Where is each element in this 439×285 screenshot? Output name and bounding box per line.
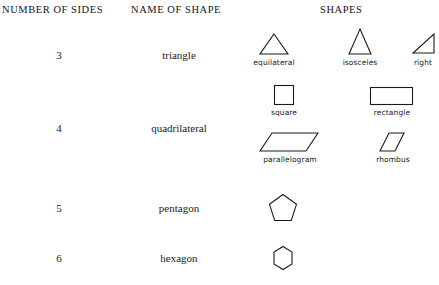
cell-name-hexagon: hexagon (118, 252, 240, 264)
figure-square (273, 84, 295, 106)
figure-pentagon (268, 193, 298, 222)
cell-sides-hexagon: 6 (0, 252, 118, 264)
column-header-shapes: SHAPES (320, 4, 362, 15)
figure-hexagon (272, 245, 294, 271)
label-equilateral: equilateral (242, 58, 306, 67)
figure-right-triangle (412, 33, 436, 55)
label-square: square (254, 108, 314, 117)
clipped-top-text: polygons (150, 0, 183, 1)
label-parallelogram: parallelogram (252, 155, 328, 164)
cell-sides-pentagon: 5 (0, 202, 118, 214)
label-right: right (406, 58, 439, 67)
figure-isosceles-triangle (347, 28, 373, 56)
cell-name-triangle: triangle (118, 49, 240, 61)
column-header-name-of-shape: NAME OF SHAPE (131, 4, 221, 15)
cell-sides-quadrilateral: 4 (0, 122, 118, 134)
cell-name-pentagon: pentagon (118, 202, 240, 214)
cell-sides-triangle: 3 (0, 49, 118, 61)
label-rhombus: rhombus (368, 155, 418, 164)
shapes-reference-table: polygons NUMBER OF SIDES NAME OF SHAPE S… (0, 0, 439, 285)
figure-rectangle (369, 86, 414, 106)
column-header-number-of-sides: NUMBER OF SIDES (2, 4, 103, 15)
label-isosceles: isosceles (330, 58, 390, 67)
figure-rhombus (378, 131, 406, 153)
cell-name-quadrilateral: quadrilateral (118, 122, 240, 134)
figure-equilateral-triangle (258, 32, 290, 56)
label-rectangle: rectangle (363, 108, 421, 117)
figure-parallelogram (258, 131, 320, 153)
